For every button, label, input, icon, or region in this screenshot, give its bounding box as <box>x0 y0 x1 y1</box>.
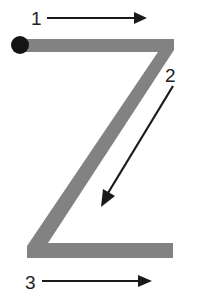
letter-z-stroke-order-diagram: 1 2 3 <box>0 0 198 301</box>
start-dot-icon <box>11 36 29 54</box>
step-number-3: 3 <box>25 272 36 293</box>
step-number-2: 2 <box>165 65 176 86</box>
step-number-1: 1 <box>31 8 42 29</box>
